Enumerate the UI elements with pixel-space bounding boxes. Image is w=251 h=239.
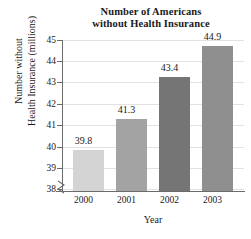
y-tick-label-43: 43 bbox=[34, 78, 56, 88]
chart-title: Number of Americans without Health Insur… bbox=[58, 6, 244, 30]
y-tick-label-44: 44 bbox=[34, 57, 56, 67]
x-axis-title: Year bbox=[60, 214, 246, 225]
y-tick-mark-41 bbox=[57, 125, 63, 126]
chart-title-line-1: Number of Americans bbox=[58, 6, 244, 18]
x-tick-label-2003: 2003 bbox=[187, 195, 238, 205]
y-tick-mark-43 bbox=[57, 82, 63, 83]
bar-2003[interactable] bbox=[202, 46, 233, 192]
axis-break-icon bbox=[57, 180, 66, 194]
y-tick-label-39: 39 bbox=[34, 164, 56, 174]
bar-value-2001: 41.3 bbox=[101, 105, 152, 115]
y-tick-mark-45 bbox=[57, 40, 63, 41]
y-tick-label-38: 38 bbox=[34, 185, 56, 195]
y-tick-mark-42 bbox=[57, 104, 63, 105]
y-tick-label-40: 40 bbox=[34, 143, 56, 153]
y-tick-label-45: 45 bbox=[34, 36, 56, 46]
y-tick-mark-39 bbox=[57, 168, 63, 169]
y-axis-title-line-1: Number without bbox=[12, 0, 25, 146]
y-tick-label-41: 41 bbox=[34, 121, 56, 131]
y-tick-labels: 45 44 43 42 41 40 39 38 bbox=[32, 0, 56, 239]
y-tick-label-42: 42 bbox=[34, 100, 56, 110]
bar-2002[interactable] bbox=[159, 77, 190, 192]
chart-figure: Number of Americans without Health Insur… bbox=[0, 0, 251, 239]
bar-value-2000: 39.8 bbox=[58, 136, 109, 146]
bar-2000[interactable] bbox=[73, 150, 104, 192]
y-axis-spine bbox=[62, 40, 63, 192]
bar-value-2003: 44.9 bbox=[187, 32, 238, 42]
y-tick-mark-44 bbox=[57, 61, 63, 62]
x-axis-spine bbox=[56, 191, 245, 192]
chart-title-line-2: without Health Insurance bbox=[58, 18, 244, 30]
bar-value-2002: 43.4 bbox=[144, 63, 195, 73]
bar-2001[interactable] bbox=[116, 119, 147, 192]
y-tick-mark-40 bbox=[57, 147, 63, 148]
